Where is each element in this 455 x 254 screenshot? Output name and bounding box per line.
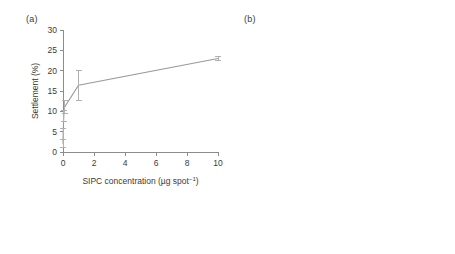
data-line <box>63 58 218 143</box>
x-axis-title-main: SIPC concentration (µg spot <box>82 176 189 186</box>
y-tick-label: 0 <box>52 147 57 157</box>
error-bar <box>60 140 66 148</box>
error-bar <box>60 128 66 139</box>
x-tick-label: 10 <box>213 158 223 168</box>
y-tick-label: 5 <box>52 127 57 137</box>
x-tick-label: 2 <box>92 158 97 168</box>
y-axis-title: Settlement (%) <box>30 63 40 119</box>
line-chart-svg: 0510152025300246810Settlement (%)SIPC co… <box>0 0 228 254</box>
x-axis-title-tail: ) <box>196 176 199 186</box>
error-bar <box>61 111 67 122</box>
figure-container: (a) 0510152025300246810Settlement (%)SIP… <box>0 0 455 254</box>
x-tick-label: 8 <box>185 158 190 168</box>
bar-chart-svg <box>228 0 455 254</box>
x-axis-title: SIPC concentration (µg spot−1) <box>82 176 198 186</box>
x-tick-label: 0 <box>61 158 66 168</box>
y-tick-label: 25 <box>48 45 58 55</box>
y-tick-label: 15 <box>48 86 58 96</box>
panel-a-label: (a) <box>26 14 38 24</box>
x-tick-label: 4 <box>123 158 128 168</box>
panel-b: (b) <box>228 0 455 254</box>
panel-a: (a) 0510152025300246810Settlement (%)SIP… <box>0 0 228 254</box>
y-tick-label: 20 <box>48 66 58 76</box>
panel-b-label: (b) <box>244 14 256 24</box>
y-tick-label: 30 <box>48 25 58 35</box>
y-tick-label: 10 <box>48 106 58 116</box>
x-tick-label: 6 <box>154 158 159 168</box>
